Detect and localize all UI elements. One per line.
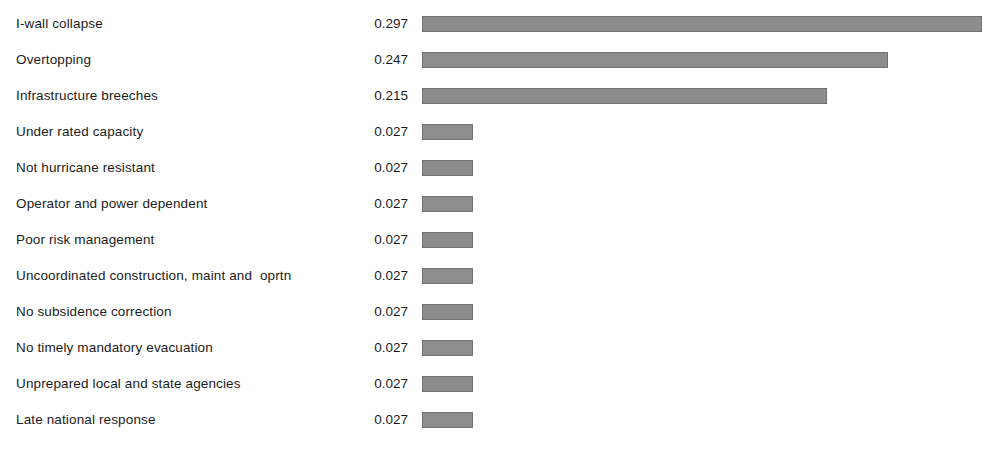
bar-fill (422, 376, 473, 392)
bar-category-label: No timely mandatory evacuation (16, 340, 213, 356)
bar-value-label: 0.027 (300, 232, 408, 248)
bar-category-label: No subsidence correction (16, 304, 172, 320)
bar-category-label: Not hurricane resistant (16, 160, 155, 176)
bar-row: No timely mandatory evacuation0.027 (0, 340, 990, 356)
bar-value-label: 0.247 (300, 52, 408, 68)
bar-track (422, 88, 827, 104)
bar-fill (422, 16, 982, 32)
bar-category-label: Unprepared local and state agencies (16, 376, 241, 392)
bar-category-label: Uncoordinated construction, maint and op… (16, 268, 291, 284)
bar-row: No subsidence correction0.027 (0, 304, 990, 320)
bar-value-label: 0.027 (300, 124, 408, 140)
bar-track (422, 16, 982, 32)
bar-value-label: 0.215 (300, 88, 408, 104)
bar-row: Infrastructure breeches0.215 (0, 88, 990, 104)
bar-fill (422, 88, 827, 104)
bar-fill (422, 160, 473, 176)
bar-value-label: 0.297 (300, 16, 408, 32)
bar-row: Overtopping0.247 (0, 52, 990, 68)
bar-track (422, 376, 473, 392)
bar-fill (422, 52, 888, 68)
bar-value-label: 0.027 (300, 340, 408, 356)
bar-fill (422, 268, 473, 284)
bar-fill (422, 196, 473, 212)
bar-category-label: Infrastructure breeches (16, 88, 158, 104)
bar-category-label: Poor risk management (16, 232, 155, 248)
bar-track (422, 196, 473, 212)
bar-row: Not hurricane resistant0.027 (0, 160, 990, 176)
bar-row: Under rated capacity0.027 (0, 124, 990, 140)
bar-track (422, 304, 473, 320)
bar-value-label: 0.027 (300, 412, 408, 428)
bar-fill (422, 124, 473, 140)
bar-category-label: I-wall collapse (16, 16, 103, 32)
bar-value-label: 0.027 (300, 196, 408, 212)
bar-row: Unprepared local and state agencies0.027 (0, 376, 990, 392)
bar-fill (422, 232, 473, 248)
bar-track (422, 268, 473, 284)
bar-value-label: 0.027 (300, 376, 408, 392)
bar-category-label: Operator and power dependent (16, 196, 207, 212)
bar-value-label: 0.027 (300, 268, 408, 284)
bar-row: Late national response0.027 (0, 412, 990, 428)
bar-row: Poor risk management0.027 (0, 232, 990, 248)
bar-track (422, 232, 473, 248)
bar-category-label: Under rated capacity (16, 124, 143, 140)
bar-track (422, 124, 473, 140)
bar-row: I-wall collapse0.297 (0, 16, 990, 32)
bar-row: Operator and power dependent0.027 (0, 196, 990, 212)
bar-category-label: Overtopping (16, 52, 91, 68)
bar-row: Uncoordinated construction, maint and op… (0, 268, 990, 284)
bar-track (422, 340, 473, 356)
bar-track (422, 412, 473, 428)
horizontal-bar-chart: I-wall collapse0.297Overtopping0.247Infr… (0, 0, 990, 451)
bar-value-label: 0.027 (300, 160, 408, 176)
bar-fill (422, 304, 473, 320)
bar-track (422, 160, 473, 176)
bar-track (422, 52, 888, 68)
bar-fill (422, 340, 473, 356)
bar-value-label: 0.027 (300, 304, 408, 320)
bar-category-label: Late national response (16, 412, 156, 428)
bar-fill (422, 412, 473, 428)
